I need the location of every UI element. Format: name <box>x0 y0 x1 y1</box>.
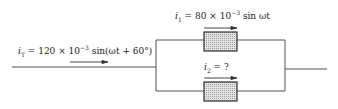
parallel-circuit-diagram: iT = 120 × 10−3 sin(ωt + 60°) i1 = 80 × … <box>0 0 338 109</box>
element-1 <box>204 32 237 51</box>
total-current-label: iT = 120 × 10−3 sin(ωt + 60°) <box>18 44 152 58</box>
branch1-current-label: i1 = 80 × 10−3 sin ωt <box>175 9 270 23</box>
branch2-current-label: i2 = ? <box>204 62 229 74</box>
element-2 <box>204 82 237 101</box>
